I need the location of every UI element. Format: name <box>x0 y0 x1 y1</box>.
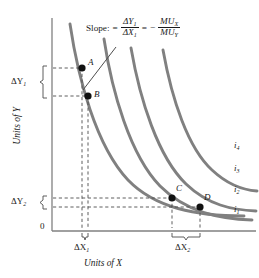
curve-i4 <box>163 50 257 191</box>
point-b-label: B <box>94 90 100 99</box>
delta-x2-label: ΔX2 <box>175 243 190 254</box>
point-a <box>78 64 85 71</box>
slope-fraction-mu: MUX MUY <box>158 17 180 39</box>
point-c <box>168 194 175 201</box>
figure-canvas <box>0 0 259 278</box>
slope-pointer-line <box>83 47 116 90</box>
brace-group-x <box>82 233 200 240</box>
slope-denominator-dx: ΔX1 <box>121 27 139 38</box>
brace-group-y <box>40 66 47 209</box>
indifference-curve-figure: Slope: = ΔY1 ΔX1 = − MUX MUY Units of Y … <box>0 0 259 278</box>
curve-label-i2: i2 <box>234 185 239 196</box>
slope-numerator-mux: MUX <box>158 17 180 27</box>
y-axis-title: Units of Y <box>13 91 22 161</box>
curve-i1 <box>70 24 244 216</box>
slope-denominator-muy: MUY <box>158 27 180 38</box>
slope-annotation: Slope: = ΔY1 ΔX1 = − MUX MUY <box>86 17 180 39</box>
data-points <box>78 64 203 210</box>
point-a-label: A <box>88 58 94 67</box>
guide-lines <box>53 68 200 228</box>
slope-equals-1: = <box>112 23 117 33</box>
slope-equals-2: = <box>142 23 147 33</box>
slope-numerator-dy: ΔY1 <box>121 17 139 27</box>
slope-minus-sign: − <box>150 23 155 33</box>
point-d-label: D <box>204 193 211 202</box>
brace-delta-y2 <box>40 196 47 209</box>
brace-delta-y1 <box>40 66 47 98</box>
delta-y2-label: ΔY2 <box>11 197 26 208</box>
point-c-label: C <box>176 184 182 193</box>
point-d <box>196 203 203 210</box>
slope-fraction-dy-dx: ΔY1 ΔX1 <box>121 17 139 39</box>
origin-label: 0 <box>40 222 45 231</box>
point-b <box>84 92 91 99</box>
delta-x1-label: ΔX1 <box>74 243 89 254</box>
x-axis-title: Units of X <box>84 259 122 268</box>
delta-y1-label: ΔY1 <box>11 77 26 88</box>
brace-delta-x1 <box>82 233 88 240</box>
curve-label-i1: i1 <box>234 205 239 216</box>
slope-lead-label: Slope: <box>86 23 109 33</box>
curve-label-i3: i3 <box>234 164 239 175</box>
brace-delta-x2 <box>172 233 200 240</box>
curve-label-i4: i4 <box>234 141 239 152</box>
